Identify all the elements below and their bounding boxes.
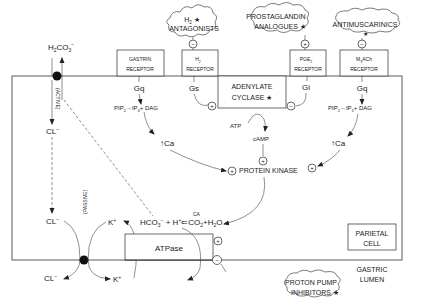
- k-lumen: K+: [113, 274, 121, 284]
- antimuscarinics-cloud: ANTIMUSCARINICS ★: [333, 8, 400, 37]
- carbonic-anhydrase-label: CA: [193, 211, 201, 217]
- antimuscarinic-inhibit: −: [358, 38, 366, 50]
- parietal-cell-line2: CELL: [363, 240, 381, 247]
- h2-antagonist-effect-symbol: −: [191, 41, 195, 47]
- h2-antagonist-inhibit: −: [189, 37, 197, 50]
- ca-right-stimulate-symbol: +: [310, 165, 314, 171]
- gastrin-receptor-line2: RECEPTOR: [126, 66, 154, 72]
- gastric-lumen-line1: GASTRIC: [356, 266, 387, 273]
- left-ca-increase: ↑Ca: [160, 139, 175, 148]
- antimuscarinics-line1: ANTIMUSCARINICS: [333, 21, 398, 28]
- h2-receptor-line2: RECEPTOR: [186, 66, 214, 72]
- prostaglandin-line1: PROSTAGLANDIN: [246, 13, 305, 20]
- atpase-label: ATPase: [155, 244, 183, 253]
- right-pip2-to-ip3: PIP2→IP3+ DAG: [328, 105, 372, 113]
- passive-label: (PASSIVE): [82, 189, 88, 214]
- left-pip2-to-ip3: PIP2→IP3+ DAG: [114, 105, 158, 113]
- carbonic-anhydrase-reaction: HCO3− + H+⇐CO2+H2O: [140, 217, 223, 228]
- m3-gq: Gq: [357, 84, 368, 93]
- adenylate-cyclase-line1: ADENYLATE: [231, 83, 272, 90]
- active-label: (ACTIVE): [55, 88, 61, 110]
- ppi-cloud: PROTON PUMP INHIBITORS ★: [285, 270, 341, 297]
- h2-receptor-sub: 2: [199, 60, 201, 64]
- h2-gs: Gs: [189, 84, 199, 93]
- gs-stimulate-symbol: +: [210, 103, 214, 109]
- camp-stimulate-symbol: +: [261, 158, 265, 164]
- antimuscarinics-star: ★: [363, 31, 368, 37]
- gastrin-receptor-line1: GASTRIN: [129, 56, 152, 62]
- camp-label: cAMP: [253, 136, 269, 142]
- gastric-lumen-line2: LUMEN: [360, 276, 385, 283]
- atpase-stimulate-symbol: +: [216, 238, 220, 244]
- cl-lumen: CL−: [44, 273, 57, 283]
- m3-receptor-suffix: ACh: [362, 56, 372, 62]
- ppi-effect-symbol: −: [215, 257, 219, 263]
- gastrin-receptor: GASTRIN RECEPTOR: [117, 50, 164, 76]
- ca-left-stimulate-symbol: +: [230, 168, 234, 174]
- atpase-pump: ATPase: [125, 234, 213, 260]
- parietal-cell-label: PARIETAL CELL: [348, 224, 396, 250]
- atp-label: ATP: [230, 123, 241, 129]
- gi-inhibit-symbol: −: [289, 103, 293, 109]
- prostaglandin-analogues-cloud: PROSTAGLANDIN ANALOGUES ★: [246, 3, 308, 33]
- active-transporter: [53, 72, 62, 81]
- adenylate-cyclase: ADENYLATE CYCLASE ★: [218, 76, 286, 108]
- parietal-cell-diagram: GASTRIN RECEPTOR H2 RECEPTOR PGE2 RECEPT…: [0, 0, 430, 301]
- prostaglandin-line2: ANALOGUES ★: [254, 23, 306, 30]
- pge2-gi: Gi: [302, 83, 310, 92]
- h2-antagonists-line2: ANTAGONISTS: [169, 25, 219, 32]
- pge2-receptor-line2: RECEPTOR: [294, 66, 322, 72]
- gs-to-ac-arrow: [194, 94, 208, 106]
- m3-receptor: M3ACh RECEPTOR: [340, 50, 388, 76]
- h2-receptor: H2 RECEPTOR: [182, 50, 218, 76]
- passive-transporter: [80, 256, 89, 265]
- h2co3-label: H2CO3−: [48, 41, 74, 53]
- ppi-line2: INHIBITORS ★: [291, 289, 339, 296]
- gi-to-ac-arrow: [296, 93, 306, 106]
- right-ca-increase: ↑Ca: [331, 139, 346, 148]
- adenylate-cyclase-line2: CYCLASE ★: [232, 94, 273, 101]
- pge2-receptor-sub: 2: [310, 60, 312, 64]
- prostaglandin-stimulate: +: [301, 35, 309, 50]
- cell-membrane: [12, 76, 402, 260]
- prostaglandin-effect-symbol: +: [303, 41, 307, 47]
- pge2-receptor: PGE2 RECEPTOR: [290, 50, 326, 76]
- pge2-receptor-line1: PGE: [300, 56, 311, 62]
- antimuscarinic-effect-symbol: −: [360, 41, 364, 47]
- h2-antagonists-star: ★: [192, 16, 200, 23]
- gastrin-gq: Gq: [134, 84, 145, 93]
- protein-kinase: PROTEIN KINASE: [239, 167, 298, 174]
- h2-antagonists-cloud: H2 ★ ANTAGONISTS: [167, 5, 219, 37]
- cl-inside-bottom: CL−: [46, 216, 59, 226]
- k-inside: K+: [108, 217, 116, 227]
- cl-inside-top: CL−: [46, 126, 59, 136]
- parietal-cell-line1: PARIETAL: [356, 230, 389, 237]
- m3-receptor-line2: RECEPTOR: [350, 66, 378, 72]
- ppi-line1: PROTON PUMP: [285, 279, 337, 286]
